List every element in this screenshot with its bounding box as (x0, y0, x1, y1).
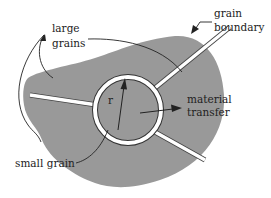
svg-text:grain: grain (214, 7, 242, 19)
svg-text:boundary: boundary (214, 21, 265, 33)
grain-boundary-label: grain boundary (214, 7, 265, 33)
small-grain-label: small grain (15, 157, 75, 169)
large-grains-label: large grains (52, 22, 86, 49)
svg-text:transfer: transfer (187, 106, 231, 118)
svg-text:grains: grains (52, 37, 86, 49)
grain-growth-diagram: r large grains grain boundary material t… (0, 0, 271, 198)
svg-text:material: material (187, 93, 232, 105)
svg-text:large: large (52, 22, 80, 34)
material-transfer-label: material transfer (187, 93, 232, 118)
